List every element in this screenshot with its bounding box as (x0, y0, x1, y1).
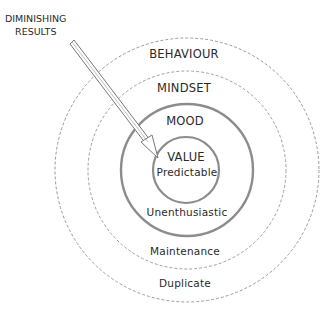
label-predictable: Predictable (157, 166, 218, 178)
label-unenthusiastic: Unenthusiastic (147, 206, 228, 218)
label-value: VALUE (167, 150, 205, 164)
label-mindset: MINDSET (157, 81, 211, 95)
diminishing-results-callout: DIMINISHING RESULTS (5, 12, 66, 38)
diminishing-results-diagram: DIMINISHING RESULTS BEHAVIOUR MINDSET MO… (0, 0, 330, 317)
callout-line-1: DIMINISHING (5, 12, 66, 25)
label-behaviour: BEHAVIOUR (149, 47, 218, 61)
callout-line-2: RESULTS (5, 25, 66, 38)
label-maintenance: Maintenance (150, 245, 220, 257)
diminishing-arrow-icon (70, 40, 158, 158)
label-duplicate: Duplicate (159, 277, 211, 289)
label-mood: MOOD (166, 114, 204, 128)
